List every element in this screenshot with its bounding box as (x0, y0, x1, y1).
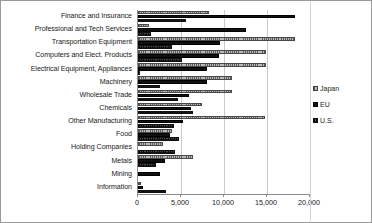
category-axis: Finance and InsuranceProfessional and Te… (1, 10, 135, 194)
bar-us (138, 32, 151, 36)
legend-item-us[interactable]: U.S. (313, 117, 369, 124)
legend-item-japan[interactable]: Japan (313, 85, 369, 92)
bar-group (138, 102, 309, 115)
bar-group (138, 141, 309, 154)
bar-groups (138, 10, 309, 194)
x-axis-tick-label: 5,000 (171, 199, 189, 206)
legend-item-eu[interactable]: EU (313, 101, 369, 108)
bar-group (138, 89, 309, 102)
bar-eu (138, 54, 219, 58)
chart-legend: JapanEUU.S. (313, 85, 369, 133)
category-label: Electrical Equipment, Appliances (1, 63, 135, 76)
category-label: Transportation Equipment (1, 36, 135, 49)
bar-japan (138, 142, 163, 146)
bar-japan (138, 103, 202, 107)
bar-us (138, 111, 193, 115)
x-axis-tick-label: 0 (135, 199, 139, 206)
bar-japan (138, 76, 232, 80)
bar-eu (138, 80, 207, 84)
legend-swatch-icon (313, 118, 318, 123)
bar-group (138, 168, 309, 181)
category-label: Finance and Insurance (1, 10, 135, 23)
category-label: Mining (1, 168, 135, 181)
category-label: Machinery (1, 76, 135, 89)
bar-japan (138, 11, 209, 15)
bar-group (138, 63, 309, 76)
bar-group (138, 36, 309, 49)
bar-group (138, 76, 309, 89)
bar-japan (138, 116, 265, 120)
bar-group (138, 115, 309, 128)
bar-japan (138, 37, 295, 41)
bar-eu (138, 159, 165, 163)
bar-group (138, 10, 309, 23)
bar-eu (138, 186, 143, 190)
x-axis-tick (223, 194, 224, 197)
x-axis-tick-label: 20,000 (298, 199, 320, 206)
bar-us (138, 137, 179, 141)
category-label: Food (1, 128, 135, 141)
category-label: Metals (1, 155, 135, 168)
category-label: Computers and Elect. Products (1, 49, 135, 62)
bar-us (138, 98, 178, 102)
legend-label: EU (320, 101, 330, 108)
legend-label: Japan (320, 85, 339, 92)
bar-us (138, 85, 160, 89)
bar-group (138, 181, 309, 194)
bar-eu (138, 41, 220, 45)
category-label: Holding Companies (1, 141, 135, 154)
bar-us (138, 163, 156, 167)
bar-group (138, 23, 309, 36)
legend-divider (310, 2, 311, 221)
bar-japan (138, 129, 172, 133)
bar-japan (138, 63, 266, 67)
bar-eu (138, 67, 207, 71)
bar-eu (138, 15, 295, 19)
bar-us (138, 71, 140, 75)
bar-group (138, 128, 309, 141)
legend-swatch-icon (313, 102, 318, 107)
bar-japan (138, 90, 232, 94)
legend-label: U.S. (320, 117, 334, 124)
bar-us (138, 58, 182, 62)
bar-us (138, 124, 174, 128)
bar-japan (138, 182, 141, 186)
category-label: Professional and Tech Services (1, 23, 135, 36)
bar-us (138, 19, 186, 23)
x-axis-tick-label: 10,000 (212, 199, 234, 206)
bar-japan (138, 155, 193, 159)
category-label: Wholesale Trade (1, 89, 135, 102)
bar-eu (138, 107, 191, 111)
bar-group (138, 155, 309, 168)
bar-eu (138, 94, 189, 98)
category-label: Information (1, 181, 135, 194)
category-label: Other Manufacturing (1, 115, 135, 128)
bar-us (138, 45, 172, 49)
bar-japan (138, 24, 149, 28)
x-axis-tick-label: 15,000 (255, 199, 277, 206)
legend-swatch-icon (313, 86, 318, 91)
bar-us (138, 190, 166, 194)
category-label: Chemicals (1, 102, 135, 115)
bar-eu (138, 172, 160, 176)
bar-us (138, 150, 175, 154)
x-axis-tick (137, 194, 138, 197)
bar-japan (138, 50, 266, 54)
x-axis-tick (180, 194, 181, 197)
bar-eu (138, 28, 246, 32)
bar-chart: Finance and InsuranceProfessional and Te… (0, 0, 372, 223)
plot-area (137, 10, 309, 194)
x-axis-tick (266, 194, 267, 197)
bar-eu (138, 133, 170, 137)
bar-eu (138, 120, 183, 124)
bar-group (138, 49, 309, 62)
